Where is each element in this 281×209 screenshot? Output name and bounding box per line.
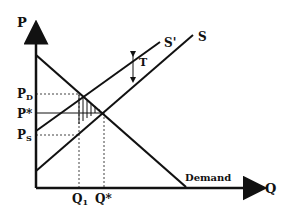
price-demand-label: PD (17, 87, 33, 102)
demand-curve (36, 55, 186, 187)
quantity-equilibrium-label: Q* (95, 192, 112, 206)
tax-label: T (139, 56, 148, 69)
demand-label: Demand (185, 172, 231, 183)
supply-label: S (198, 30, 207, 44)
supply-curve (36, 35, 193, 171)
price-equilibrium-label: P* (17, 107, 33, 121)
tax-diagram: P Q S' S Demand T PD P* PS Q1 Q* (0, 0, 281, 209)
x-axis-label: Q (265, 181, 276, 196)
price-supply-label: PS (17, 128, 32, 143)
y-axis-label: P (17, 15, 27, 30)
quantity-taxed-label: Q1 (72, 192, 88, 207)
supply-shifted-label: S' (164, 36, 176, 50)
